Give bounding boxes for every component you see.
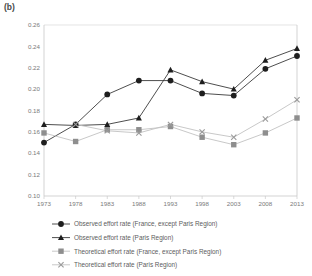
y-tick-label: 0.26 <box>28 21 41 28</box>
y-tick-label: 0.16 <box>28 128 41 135</box>
figure-container: (b) 0.260.240.220.200.180.160.140.120.10… <box>0 0 312 276</box>
data-point-marker-s1 <box>136 115 142 121</box>
data-point-marker-s0 <box>104 92 110 98</box>
legend-marker-square-icon <box>58 249 63 254</box>
data-point-marker-s2 <box>41 130 46 135</box>
x-axis-tick-labels: 197319781983198819931998200320082013 <box>37 200 304 207</box>
x-tick-label: 1983 <box>100 200 114 207</box>
x-tick-label: 1998 <box>195 200 209 207</box>
effort-rate-line-chart: 0.260.240.220.200.180.160.140.120.10 197… <box>0 0 312 276</box>
legend-item: Observed effort rate (Paris Region) <box>52 234 173 242</box>
legend-item: Theoretical effort rate (Paris Region) <box>52 261 177 269</box>
series-line-1 <box>44 49 297 126</box>
data-point-marker-s0 <box>168 78 174 84</box>
data-point-marker-s2 <box>231 142 236 147</box>
x-tick-label: 1978 <box>69 200 83 207</box>
data-point-marker-s2 <box>294 115 299 120</box>
data-point-marker-s2 <box>105 127 110 132</box>
y-tick-label: 0.24 <box>28 43 41 50</box>
data-point-marker-s2 <box>199 135 204 140</box>
x-tick-label: 2003 <box>227 200 241 207</box>
data-point-marker-s0 <box>199 91 205 97</box>
y-tick-label: 0.22 <box>28 64 41 71</box>
data-point-marker-s1 <box>294 45 300 51</box>
y-axis-tick-labels: 0.260.240.220.200.180.160.140.120.10 <box>28 21 41 199</box>
data-point-marker-s0 <box>136 78 142 84</box>
data-point-marker-s2 <box>263 130 268 135</box>
series-line-2 <box>44 118 297 145</box>
y-tick-label: 0.18 <box>28 107 41 114</box>
legend-label: Observed effort rate (Paris Region) <box>74 234 173 242</box>
series-lines-group <box>44 49 297 145</box>
legend-marker-circle-icon <box>58 221 64 227</box>
x-tick-label: 1988 <box>132 200 146 207</box>
data-point-marker-s0 <box>231 93 237 99</box>
legend-label: Theoretical effort rate (Paris Region) <box>74 261 177 269</box>
chart-legend: Observed effort rate (France, except Par… <box>52 220 221 269</box>
y-tick-label: 0.20 <box>28 85 41 92</box>
x-tick-label: 2013 <box>290 200 304 207</box>
y-tick-label: 0.12 <box>28 171 41 178</box>
data-point-marker-s0 <box>41 140 47 146</box>
data-point-marker-s1 <box>167 67 173 73</box>
series-markers-group <box>41 45 300 147</box>
data-point-marker-s0 <box>262 66 268 72</box>
data-point-marker-s3 <box>263 116 268 121</box>
y-tick-label: 0.14 <box>28 149 41 156</box>
x-tick-label: 1993 <box>164 200 178 207</box>
x-axis-tick-marks <box>44 196 297 199</box>
data-point-marker-s0 <box>294 53 300 59</box>
x-tick-label: 2008 <box>258 200 272 207</box>
legend-item: Theoretical effort rate (France, except … <box>52 248 221 256</box>
x-tick-label: 1973 <box>37 200 51 207</box>
legend-item: Observed effort rate (France, except Par… <box>52 220 217 228</box>
data-point-marker-s2 <box>73 139 78 144</box>
y-tick-label: 0.10 <box>28 192 41 199</box>
legend-label: Observed effort rate (France, except Par… <box>74 220 217 228</box>
legend-label: Theoretical effort rate (France, except … <box>74 248 221 256</box>
